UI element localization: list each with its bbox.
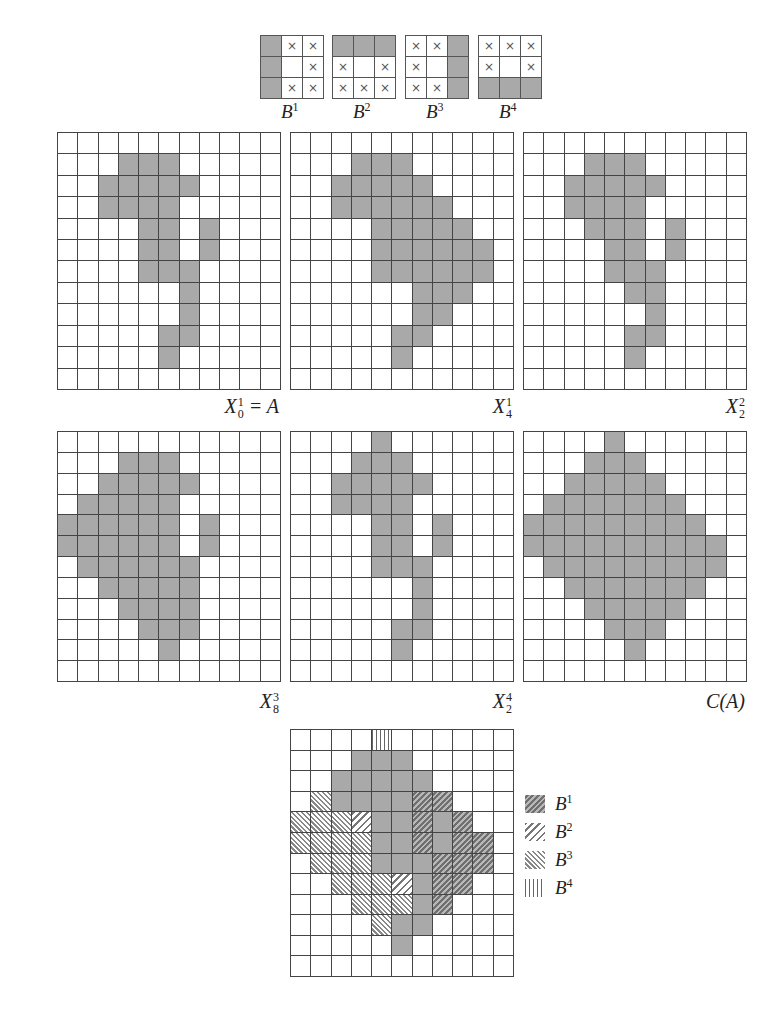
grid-cell bbox=[139, 495, 158, 515]
composite-cell bbox=[413, 956, 432, 976]
grid-cell bbox=[261, 599, 280, 619]
grid-cell bbox=[524, 661, 543, 681]
grid-cell bbox=[352, 154, 371, 174]
composite-cell bbox=[433, 751, 452, 771]
grid-cell bbox=[78, 326, 97, 346]
composite-cell bbox=[372, 956, 391, 976]
grid-cell bbox=[78, 347, 97, 367]
grid-cell bbox=[159, 474, 178, 494]
grid-cell bbox=[727, 640, 746, 660]
grid-cell bbox=[332, 219, 351, 239]
cross-icon: × bbox=[282, 36, 302, 56]
grid-cell bbox=[78, 599, 97, 619]
grid-cell bbox=[646, 176, 665, 196]
grid-cell bbox=[392, 347, 411, 367]
grid-cell bbox=[392, 283, 411, 303]
grid-cell bbox=[433, 578, 452, 598]
grid-cell bbox=[392, 219, 411, 239]
grid-cell bbox=[159, 578, 178, 598]
grid-cell bbox=[99, 557, 118, 577]
cross-icon: × bbox=[406, 36, 426, 56]
grid-cell bbox=[291, 536, 310, 556]
grid-cell bbox=[180, 197, 199, 217]
grid-cell bbox=[99, 240, 118, 260]
grid-cell bbox=[291, 661, 310, 681]
composite-cell bbox=[433, 854, 452, 874]
grid-cell bbox=[99, 261, 118, 281]
grid-cell bbox=[727, 453, 746, 473]
grid-cell bbox=[494, 176, 513, 196]
grid-cell bbox=[139, 640, 158, 660]
grid-cell bbox=[605, 474, 624, 494]
grid-cell bbox=[352, 240, 371, 260]
grid-cell bbox=[494, 219, 513, 239]
pattern-swatch-b2 bbox=[525, 823, 545, 841]
grid-cell bbox=[727, 474, 746, 494]
grid-cell bbox=[58, 197, 77, 217]
grid-cell bbox=[78, 154, 97, 174]
grid-cell bbox=[666, 432, 685, 452]
grid-cell bbox=[392, 578, 411, 598]
grid-cell bbox=[565, 661, 584, 681]
grid-cell bbox=[352, 197, 371, 217]
grid-cell bbox=[372, 661, 391, 681]
grid-cell bbox=[524, 474, 543, 494]
grid-cell bbox=[291, 219, 310, 239]
grid-cell bbox=[706, 515, 725, 535]
grid-cell bbox=[291, 176, 310, 196]
grid-cell bbox=[494, 432, 513, 452]
grid-cell bbox=[291, 347, 310, 367]
grid-cell bbox=[99, 326, 118, 346]
grid-cell bbox=[494, 326, 513, 346]
grid-cell bbox=[291, 369, 310, 389]
grid-cell bbox=[494, 369, 513, 389]
grid-cell bbox=[706, 661, 725, 681]
grid-cell bbox=[585, 578, 604, 598]
grid-cell bbox=[686, 453, 705, 473]
grid-cell bbox=[473, 133, 492, 153]
grid-cell bbox=[332, 432, 351, 452]
grid-cell bbox=[666, 176, 685, 196]
grid-cell bbox=[473, 536, 492, 556]
grid-cell bbox=[352, 304, 371, 324]
grid-cell bbox=[139, 369, 158, 389]
grid-cell bbox=[706, 474, 725, 494]
grid-cell bbox=[473, 578, 492, 598]
grid-cell bbox=[565, 283, 584, 303]
grid-cell bbox=[413, 453, 432, 473]
grid-cell bbox=[291, 326, 310, 346]
grid-cell bbox=[453, 432, 472, 452]
grid-cell bbox=[605, 326, 624, 346]
grid-cell bbox=[605, 347, 624, 367]
grid-cell bbox=[727, 369, 746, 389]
grid-cell bbox=[565, 515, 584, 535]
grid-cell bbox=[544, 197, 563, 217]
composite-cell bbox=[433, 915, 452, 935]
grid-cell bbox=[78, 176, 97, 196]
grid-cell bbox=[565, 176, 584, 196]
grid-cell bbox=[413, 176, 432, 196]
grid-cell bbox=[159, 495, 178, 515]
composite-cell bbox=[473, 812, 492, 832]
grid-cell bbox=[473, 154, 492, 174]
composite-cell bbox=[494, 936, 513, 956]
composite-cell bbox=[392, 771, 411, 791]
composite-cell bbox=[453, 956, 472, 976]
grid-cell bbox=[332, 283, 351, 303]
grid-cell bbox=[311, 219, 330, 239]
grid-cell bbox=[706, 154, 725, 174]
grid-cell bbox=[585, 261, 604, 281]
grid-cell bbox=[261, 176, 280, 196]
grid-cell bbox=[646, 240, 665, 260]
composite-cell bbox=[332, 812, 351, 832]
composite-cell bbox=[332, 792, 351, 812]
grid-cell bbox=[413, 557, 432, 577]
grid-cell bbox=[372, 133, 391, 153]
cross-icon: × bbox=[303, 36, 323, 56]
grid-cell bbox=[605, 578, 624, 598]
grid-cell bbox=[352, 557, 371, 577]
grid-cell bbox=[565, 347, 584, 367]
grid-cell bbox=[524, 432, 543, 452]
grid-cell bbox=[352, 640, 371, 660]
composite-cell bbox=[372, 771, 391, 791]
